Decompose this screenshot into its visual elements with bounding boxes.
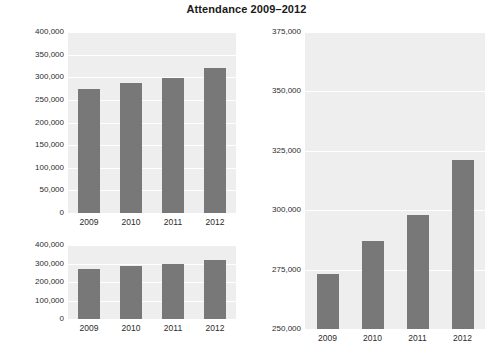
page-title: Attendance 2009–2012 <box>0 3 493 15</box>
gridline <box>68 55 236 56</box>
x-axis-tick-label: 2009 <box>68 324 110 333</box>
x-axis-tick-label: 2011 <box>152 218 194 227</box>
bar-2011 <box>162 78 184 213</box>
bar-2010 <box>362 241 384 329</box>
y-axis-tick-label: 200,000 <box>35 278 64 286</box>
x-axis-tick-label: 2012 <box>440 334 485 343</box>
y-axis-bottom-left: 0100,000200,000300,000400,000 <box>0 245 64 319</box>
y-axis-tick-label: 300,000 <box>35 260 64 268</box>
x-axis-tick-label: 2010 <box>110 324 152 333</box>
bar-2009 <box>78 269 100 320</box>
y-axis-top-left: 050,000100,000150,000200,000250,000300,0… <box>0 32 64 213</box>
x-axis-tick-label: 2010 <box>110 218 152 227</box>
chart-panel-top-left: 050,000100,000150,000200,000250,000300,0… <box>0 24 244 234</box>
x-axis-tick-label: 2012 <box>194 218 236 227</box>
bar-2011 <box>407 215 429 329</box>
bar-2011 <box>162 264 184 319</box>
x-axis-tick-label: 2011 <box>395 334 440 343</box>
bar-2012 <box>204 68 226 213</box>
y-axis-tick-label: 300,000 <box>272 206 301 214</box>
plot-area-top-left <box>68 32 236 213</box>
bar-2012 <box>452 160 474 329</box>
x-axis-right: 2009201020112012 <box>305 332 485 346</box>
bar-2010 <box>120 266 142 319</box>
bar-2012 <box>204 260 226 319</box>
bar-2010 <box>120 83 142 213</box>
gridline <box>305 151 485 152</box>
bar-2009 <box>317 274 339 329</box>
y-axis-tick-label: 400,000 <box>35 241 64 249</box>
y-axis-tick-label: 250,000 <box>35 96 64 104</box>
plot-area-right <box>305 32 485 329</box>
x-axis-tick-label: 2009 <box>305 334 350 343</box>
y-axis-tick-label: 350,000 <box>35 51 64 59</box>
y-axis-tick-label: 100,000 <box>35 164 64 172</box>
y-axis-tick-label: 50,000 <box>40 186 64 194</box>
y-axis-tick-label: 275,000 <box>272 266 301 274</box>
x-axis-tick-label: 2011 <box>152 324 194 333</box>
x-axis-tick-label: 2010 <box>350 334 395 343</box>
y-axis-right: 250,000275,000300,000325,000350,000375,0… <box>249 32 301 329</box>
y-axis-tick-label: 200,000 <box>35 119 64 127</box>
y-axis-tick-label: 0 <box>60 315 64 323</box>
y-axis-tick-label: 300,000 <box>35 73 64 81</box>
y-axis-tick-label: 250,000 <box>272 325 301 333</box>
gridline <box>68 32 236 33</box>
y-axis-tick-label: 150,000 <box>35 141 64 149</box>
y-axis-tick-label: 100,000 <box>35 297 64 305</box>
y-axis-tick-label: 0 <box>60 209 64 217</box>
gridline <box>305 32 485 33</box>
x-axis-bottom-left: 2009201020112012 <box>68 322 236 336</box>
y-axis-tick-label: 400,000 <box>35 28 64 36</box>
y-axis-tick-label: 325,000 <box>272 147 301 155</box>
chart-panel-right: 250,000275,000300,000325,000350,000375,0… <box>249 24 493 350</box>
y-axis-tick-label: 350,000 <box>272 87 301 95</box>
gridline <box>305 91 485 92</box>
bar-2009 <box>78 89 100 213</box>
x-axis-top-left: 2009201020112012 <box>68 216 236 230</box>
chart-panel-bottom-left: 0100,000200,000300,000400,000 2009201020… <box>0 240 244 350</box>
x-axis-tick-label: 2012 <box>194 324 236 333</box>
plot-area-bottom-left <box>68 245 236 319</box>
y-axis-tick-label: 375,000 <box>272 28 301 36</box>
gridline <box>68 245 236 246</box>
x-axis-tick-label: 2009 <box>68 218 110 227</box>
